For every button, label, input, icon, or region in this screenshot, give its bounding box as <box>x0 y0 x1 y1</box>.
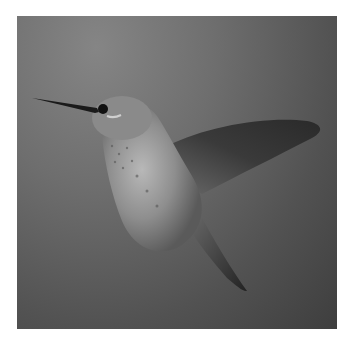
beak <box>32 98 99 113</box>
hummingbird-illustration <box>17 16 337 329</box>
head <box>92 96 152 140</box>
hummingbird-photo <box>17 16 337 329</box>
eye <box>98 104 108 114</box>
